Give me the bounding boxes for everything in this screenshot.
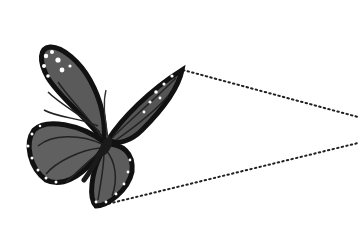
butterfly bbox=[27, 47, 183, 206]
butterfly-illustration bbox=[0, 0, 358, 236]
dotted-line-top bbox=[183, 70, 358, 117]
dotted-line-bottom bbox=[95, 143, 358, 207]
